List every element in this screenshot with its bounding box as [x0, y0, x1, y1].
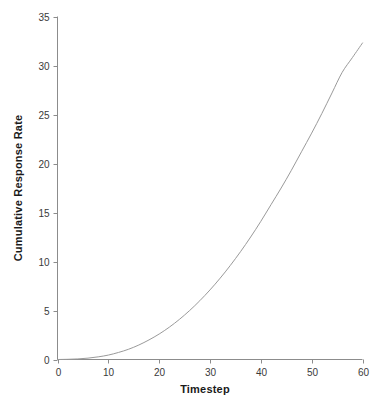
x-tick-label: 10 — [103, 367, 115, 378]
x-tick-label: 30 — [205, 367, 217, 378]
y-tick-label: 20 — [38, 159, 50, 170]
chart-container: 05101520253035 0102030405060 Timestep Cu… — [0, 0, 379, 410]
y-tick-label: 15 — [38, 208, 50, 219]
y-tick-label: 10 — [38, 257, 50, 268]
y-tick-label: 25 — [38, 110, 50, 121]
y-tick-label: 5 — [44, 306, 50, 317]
x-tick-label: 50 — [307, 367, 319, 378]
y-axis-title: Cumulative Response Rate — [12, 115, 24, 262]
y-tick-label: 35 — [38, 12, 50, 23]
x-tick-label: 40 — [256, 367, 268, 378]
y-tick-label: 0 — [44, 355, 50, 366]
x-tick-label: 20 — [154, 367, 166, 378]
line-chart: 05101520253035 0102030405060 Timestep Cu… — [0, 0, 379, 410]
x-tick-label: 60 — [358, 367, 370, 378]
chart-background — [0, 0, 379, 410]
y-tick-label: 30 — [38, 61, 50, 72]
x-tick-label: 0 — [56, 367, 62, 378]
x-axis-title: Timestep — [180, 383, 230, 395]
